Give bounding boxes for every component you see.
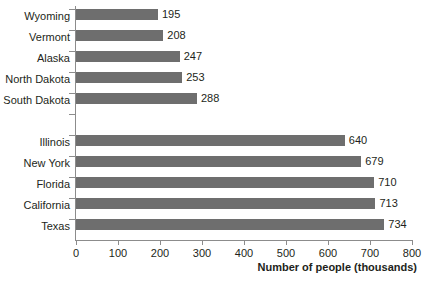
bar-row: 208 xyxy=(76,27,416,48)
y-axis-label-new-york: New York xyxy=(0,156,70,170)
x-axis-tick-label: 700 xyxy=(350,246,390,260)
bar-value-label: 713 xyxy=(375,195,397,212)
bar-value-label: 288 xyxy=(197,90,219,107)
plot-area: 195208247253288640679710713734 xyxy=(76,6,416,240)
x-axis-tick xyxy=(76,240,77,245)
y-axis-tick xyxy=(69,135,76,136)
y-axis-label-florida: Florida xyxy=(0,177,70,191)
x-axis-tick-label: 0 xyxy=(56,246,96,260)
x-axis-title: Number of people (thousands) xyxy=(0,261,417,273)
bar[interactable] xyxy=(76,156,361,167)
y-axis-tick xyxy=(69,198,76,199)
bar-row: 713 xyxy=(76,195,416,216)
x-axis-tick xyxy=(286,240,287,245)
x-axis-tick-label: 800 xyxy=(392,246,431,260)
bar-row: 288 xyxy=(76,90,416,111)
bar[interactable] xyxy=(76,93,197,104)
y-axis-tick xyxy=(69,30,76,31)
y-axis-label-vermont: Vermont xyxy=(0,30,70,44)
bar-value-label: 710 xyxy=(374,174,396,191)
bar-value-label: 247 xyxy=(180,48,202,65)
y-axis-tick xyxy=(69,93,76,94)
x-axis-tick-label: 600 xyxy=(308,246,348,260)
y-axis-tick xyxy=(69,219,76,220)
bar[interactable] xyxy=(76,72,182,83)
y-axis-label-illinois: Illinois xyxy=(0,135,70,149)
bar-row: 195 xyxy=(76,6,416,27)
x-axis-tick xyxy=(202,240,203,245)
y-axis-label-wyoming: Wyoming xyxy=(0,9,70,23)
x-axis-tick xyxy=(160,240,161,245)
x-axis-tick-label: 100 xyxy=(98,246,138,260)
bar-row: 679 xyxy=(76,153,416,174)
x-axis-tick-label: 500 xyxy=(266,246,306,260)
y-axis-tick xyxy=(69,9,76,10)
y-axis-tick xyxy=(69,177,76,178)
bar-value-label: 208 xyxy=(163,27,185,44)
bar-row: 640 xyxy=(76,132,416,153)
y-axis-label-alaska: Alaska xyxy=(0,51,70,65)
bar[interactable] xyxy=(76,135,345,146)
x-axis-tick xyxy=(328,240,329,245)
bar-chart: WyomingVermontAlaskaNorth DakotaSouth Da… xyxy=(0,0,431,281)
bar-value-label: 679 xyxy=(361,153,383,170)
x-axis-tick-label: 300 xyxy=(182,246,222,260)
y-axis-label-california: California xyxy=(0,198,70,212)
bar-row: 710 xyxy=(76,174,416,195)
y-axis-tick xyxy=(69,72,76,73)
bar[interactable] xyxy=(76,177,374,188)
x-axis-tick xyxy=(244,240,245,245)
x-axis-tick-label: 200 xyxy=(140,246,180,260)
bar-value-label: 734 xyxy=(384,216,406,233)
x-axis-tick xyxy=(412,240,413,245)
bar-row: 253 xyxy=(76,69,416,90)
bar[interactable] xyxy=(76,51,180,62)
bar-row: 247 xyxy=(76,48,416,69)
y-axis-label-north-dakota: North Dakota xyxy=(0,72,70,86)
bar[interactable] xyxy=(76,30,163,41)
bar-value-label: 640 xyxy=(345,132,367,149)
bar-value-label: 253 xyxy=(182,69,204,86)
bar[interactable] xyxy=(76,9,158,20)
y-axis-tick xyxy=(69,114,76,115)
bar-value-label: 195 xyxy=(158,6,180,23)
y-axis-tick xyxy=(69,51,76,52)
y-axis-label-south-dakota: South Dakota xyxy=(0,93,70,107)
x-axis-tick xyxy=(370,240,371,245)
bar[interactable] xyxy=(76,198,375,209)
y-axis-tick xyxy=(69,156,76,157)
bar-row: 734 xyxy=(76,216,416,237)
y-axis-label-texas: Texas xyxy=(0,219,70,233)
x-axis-tick-label: 400 xyxy=(224,246,264,260)
x-axis-tick xyxy=(118,240,119,245)
bar[interactable] xyxy=(76,219,384,230)
